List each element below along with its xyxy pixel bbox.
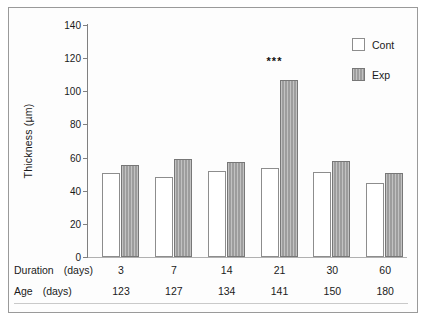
bar-exp-21 [280,80,298,257]
legend-swatch-exp-icon [352,68,365,81]
duration-cell-2: 14 [204,264,250,276]
row-header-duration: Duration(days) [14,264,93,276]
y-tick-label: 60 [70,152,81,163]
age-cell-1: 127 [151,285,197,297]
significance-marker-21: *** [267,55,283,67]
bar-group-30 [313,25,351,257]
bar-cont-30 [313,172,331,257]
bar-group-21: *** [261,25,299,257]
row-header-age-text: Age [14,285,33,297]
table-row-duration: Duration(days) 3714213060 [14,261,408,281]
duration-cell-0: 3 [98,264,144,276]
bar-exp-14 [227,162,245,257]
bar-cont-21 [261,168,279,257]
age-cell-3: 141 [257,285,303,297]
bar-cont-60 [366,183,384,257]
legend-label-exp: Exp [372,69,390,81]
y-tick-mark [83,91,88,92]
age-cell-4: 150 [309,285,355,297]
bar-group-14 [208,25,246,257]
bar-cont-7 [155,177,173,257]
duration-cell-5: 60 [362,264,408,276]
age-cell-5: 180 [362,285,408,297]
y-tick-mark [83,158,88,159]
chart-legend: Cont Exp [352,38,394,98]
y-tick-label: 100 [64,86,81,97]
y-tick-mark [83,191,88,192]
duration-cell-3: 21 [257,264,303,276]
legend-item-cont: Cont [352,38,394,51]
y-axis-label: Thickness (µm) [22,25,36,257]
y-tick-mark [83,58,88,59]
y-tick-label: 40 [70,185,81,196]
bottom-divider [14,303,408,304]
y-tick-label: 80 [70,119,81,130]
bar-exp-30 [332,161,350,257]
y-tick-label: 20 [70,218,81,229]
legend-item-exp: Exp [352,68,394,81]
bar-group-3 [102,25,140,257]
row-header-duration-unit: (days) [64,264,93,276]
bar-cont-14 [208,171,226,257]
bar-exp-60 [385,173,403,257]
row-header-age: Age(days) [14,285,72,297]
legend-label-cont: Cont [372,39,394,51]
row-header-age-unit: (days) [43,285,72,297]
duration-cell-1: 7 [151,264,197,276]
y-tick-mark [83,25,88,26]
table-row-age: Age(days) 123127134141150180 [14,282,408,302]
row-header-duration-text: Duration [14,264,54,276]
y-tick-mark [83,124,88,125]
bar-exp-7 [174,159,192,257]
y-tick-label: 120 [64,53,81,64]
age-cell-2: 134 [204,285,250,297]
y-tick-mark [83,257,88,258]
duration-cell-4: 30 [309,264,355,276]
age-cell-0: 123 [98,285,144,297]
bar-group-7 [155,25,193,257]
x-axis-line [87,257,407,258]
figure-container: Thickness (µm) 020406080100120140*** Con… [0,0,426,322]
legend-swatch-cont-icon [352,38,365,51]
bar-cont-3 [102,173,120,257]
bar-exp-3 [121,165,139,257]
y-tick-mark [83,224,88,225]
y-tick-label: 140 [64,20,81,31]
